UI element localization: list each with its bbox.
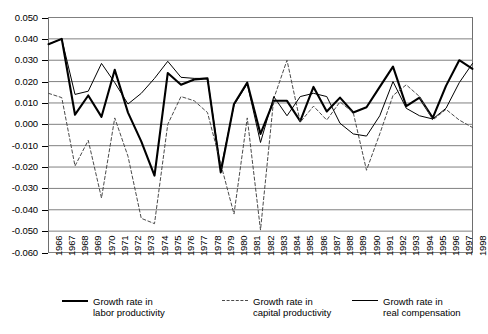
x-axis-label: 1967 — [66, 236, 77, 256]
x-axis-label: 1974 — [159, 236, 170, 256]
x-axis-label: 1978 — [212, 236, 223, 256]
x-axis-label: 1973 — [145, 236, 156, 256]
x-axis-label: 1994 — [424, 236, 435, 256]
legend-label-line1: Growth rate in — [383, 296, 461, 307]
x-axis-label: 1976 — [185, 236, 196, 256]
legend-label-line1: Growth rate in — [93, 296, 165, 307]
legend-label-line1: Growth rate in — [253, 296, 331, 307]
x-axis-label: 1970 — [106, 236, 117, 256]
legend-label: Growth rate inreal compensation — [383, 296, 461, 318]
x-axis-label: 1984 — [291, 236, 302, 256]
x-axis-label: 1981 — [251, 236, 262, 256]
x-axis-label: 1988 — [344, 236, 355, 256]
legend-item: Growth rate inlabor productivity — [62, 296, 165, 318]
legend-item: Growth rate inreal compensation — [352, 296, 461, 318]
legend-swatch-solid-thick-icon — [62, 296, 88, 305]
x-axis-label: 1992 — [397, 236, 408, 256]
x-axis-label: 1987 — [331, 236, 342, 256]
legend-label-line2: capital productivity — [253, 307, 331, 318]
x-axis-label: 1975 — [172, 236, 183, 256]
x-axis-label: 1977 — [198, 236, 209, 256]
legend-label-line2: real compensation — [383, 307, 461, 318]
x-axis-label: 1972 — [132, 236, 143, 256]
x-axis-label: 1996 — [450, 236, 461, 256]
legend-swatch-dashed-icon — [222, 296, 248, 305]
x-axis-label: 1993 — [410, 236, 421, 256]
legend-label-line2: labor productivity — [93, 307, 165, 318]
x-axis-label: 1982 — [265, 236, 276, 256]
x-axis-label: 1979 — [225, 236, 236, 256]
x-axis-label: 1985 — [304, 236, 315, 256]
x-axis-label: 1966 — [53, 236, 64, 256]
x-axis-label: 1969 — [92, 236, 103, 256]
legend-item: Growth rate incapital productivity — [222, 296, 331, 318]
x-axis-label: 1991 — [384, 236, 395, 256]
legend-swatch-solid-thin-icon — [352, 296, 378, 305]
legend-label: Growth rate inlabor productivity — [93, 296, 165, 318]
x-axis-label: 1997 — [463, 236, 474, 256]
x-axis-label: 1990 — [371, 236, 382, 256]
x-axis-label: 1989 — [357, 236, 368, 256]
x-axis-label: 1983 — [278, 236, 289, 256]
x-axis-label: 1968 — [79, 236, 90, 256]
x-axis-label: 1986 — [318, 236, 329, 256]
legend-label: Growth rate incapital productivity — [253, 296, 331, 318]
x-axis-label: 1998 — [477, 236, 488, 256]
x-axis-label: 1980 — [238, 236, 249, 256]
x-axis-label: 1995 — [437, 236, 448, 256]
x-axis-label: 1971 — [119, 236, 130, 256]
